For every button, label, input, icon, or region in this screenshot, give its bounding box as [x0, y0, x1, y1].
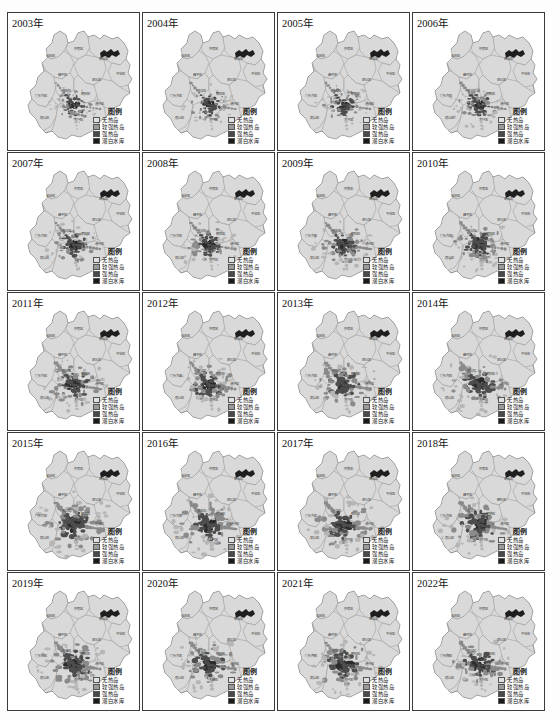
heat-island-patch [507, 656, 509, 660]
district-label: 大兴区 [479, 677, 489, 682]
district-label: 门头沟区 [440, 373, 453, 378]
heat-island-patch [82, 688, 87, 692]
heat-island-patch [205, 676, 207, 678]
district-label: 通州区 [95, 521, 105, 526]
heat-island-patch [80, 529, 85, 532]
heat-island-patch [479, 96, 483, 99]
district-label: 怀柔区 [209, 186, 219, 191]
heat-island-patch [480, 659, 487, 661]
heat-island-patch [217, 245, 221, 248]
district-label: 海淀区 [62, 88, 72, 93]
district-label: 海淀区 [197, 648, 207, 653]
heat-island-patch [342, 531, 347, 534]
heat-island-patch [479, 653, 482, 657]
heat-island-patch [193, 668, 199, 672]
heat-island-patch [326, 84, 330, 87]
heat-island-patch [467, 661, 470, 666]
heat-island-patch [86, 238, 88, 242]
heat-island-patch [212, 644, 216, 647]
legend-entry-label: 潮白水库 [237, 138, 260, 145]
heat-island-patch [476, 514, 481, 519]
heat-island-patch [228, 373, 232, 377]
heat-island-patch [53, 369, 58, 371]
district-label: 顺义区 [92, 637, 102, 642]
district-label: 昌平区 [193, 213, 203, 217]
heat-island-patch [61, 256, 65, 259]
district-label: 朝阳区 [81, 651, 91, 656]
heat-island-patch [81, 520, 87, 524]
heat-island-patch [478, 85, 480, 86]
heat-island-patch [39, 507, 43, 509]
heat-island-patch [322, 246, 326, 250]
district-label: 密云区 [369, 196, 379, 201]
heat-island-patch [349, 664, 352, 667]
heat-island-patch [221, 532, 223, 537]
heat-island-patch [55, 222, 58, 225]
legend-swatch-icon [498, 418, 505, 424]
district-label: 延庆区 [451, 473, 461, 478]
district-label: 房山区 [310, 395, 320, 400]
heat-island-patch [208, 530, 211, 533]
heat-island-patch [345, 268, 348, 271]
district-label: 顺义区 [227, 217, 237, 222]
district-label: 延庆区 [46, 333, 56, 338]
district-label: 房山区 [445, 255, 455, 260]
legend-swatch-icon [363, 404, 370, 410]
heat-island-patch [467, 252, 470, 253]
legend-entry-label: 较强热岛 [372, 544, 395, 551]
district-label: 朝阳区 [486, 371, 496, 376]
heat-island-patch [88, 679, 92, 681]
heat-island-patch [58, 378, 63, 380]
heat-island-patch [59, 257, 61, 259]
heat-island-patch [489, 253, 491, 257]
district-label: 怀柔区 [209, 606, 219, 611]
heat-island-patch [459, 362, 463, 365]
heat-island-patch [75, 264, 77, 267]
district-label: 延庆区 [451, 333, 461, 338]
legend-swatch-icon [228, 551, 235, 557]
district-label: 通州区 [500, 521, 510, 526]
heat-island-patch [462, 664, 466, 667]
heat-island-patch [220, 246, 223, 248]
map-panel: 2004年延庆区怀柔区密云区昌平区顺义区平谷区门头沟区海淀区朝阳区通州区房山区大… [142, 12, 275, 151]
heat-island-patch [217, 524, 221, 529]
heat-island-patch [199, 395, 202, 398]
legend-entry: 潮白水库 [363, 138, 407, 145]
heat-island-patch [224, 96, 227, 99]
legend-swatch-icon [93, 117, 100, 123]
map-legend: 图例无热岛较强热岛强热岛潮白水库 [498, 248, 542, 285]
heat-island-patch [340, 643, 346, 646]
heat-island-patch [462, 677, 467, 680]
legend-entry-label: 潮白水库 [237, 698, 260, 705]
legend-swatch-icon [498, 698, 505, 704]
district-label: 门头沟区 [170, 93, 183, 98]
heat-island-patch [321, 652, 324, 655]
legend-entry: 较强热岛 [228, 404, 272, 411]
heat-island-patch [323, 397, 327, 401]
legend-entry-label: 潮白水库 [507, 558, 530, 565]
legend-entry: 强热岛 [363, 551, 407, 558]
legend-entry: 较强热岛 [498, 264, 542, 271]
heat-island-patch [209, 371, 213, 375]
heat-island-patch [173, 526, 179, 529]
legend-swatch-icon [363, 257, 370, 263]
heat-island-patch [208, 107, 211, 110]
district-label: 延庆区 [451, 613, 461, 618]
heat-island-patch [84, 516, 89, 519]
heat-island-patch [346, 104, 349, 107]
heat-island-patch [58, 521, 61, 523]
district-label: 顺义区 [92, 357, 102, 362]
panel-year-label: 2011年 [12, 295, 43, 310]
heat-island-patch [339, 99, 341, 102]
heat-island-patch [351, 501, 357, 505]
legend-entry-label: 较强热岛 [102, 264, 125, 271]
legend-swatch-icon [498, 404, 505, 410]
heat-island-patch [196, 94, 198, 97]
district-label: 怀柔区 [344, 466, 354, 471]
heat-island-patch [200, 102, 203, 104]
heat-island-patch [466, 107, 469, 110]
district-label: 平谷区 [521, 351, 531, 356]
legend-entry-label: 较强热岛 [372, 404, 395, 411]
heat-island-patch [226, 373, 228, 375]
legend-title: 图例 [93, 528, 137, 536]
